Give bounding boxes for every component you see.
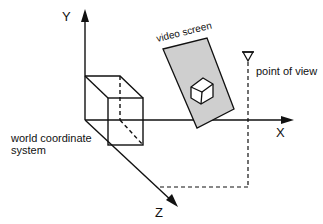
world-coordinate-label: world coordinate xyxy=(11,132,92,144)
x-axis-label: X xyxy=(276,127,285,139)
y-axis xyxy=(81,9,89,120)
x-axis xyxy=(85,116,294,124)
video-screen xyxy=(163,38,234,128)
z-axis-label: Z xyxy=(155,207,163,219)
y-axis-label: Y xyxy=(62,11,71,23)
world-coordinate-label-line2: system xyxy=(11,144,46,156)
point-of-view-label: point of view xyxy=(256,65,317,77)
world-cube xyxy=(85,76,143,145)
